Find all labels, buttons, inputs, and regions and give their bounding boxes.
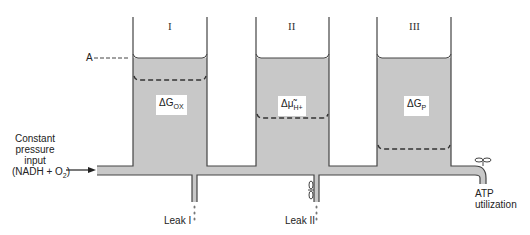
- tank-numeral-1: I: [168, 20, 172, 32]
- leak-2-label: Leak II: [285, 215, 315, 226]
- tank-numeral-3: III: [409, 20, 420, 32]
- tank-label-delta-mu-h: Δμ̃H+: [278, 96, 306, 116]
- energy-transduction-tank-diagram: A I II III ΔGOX Δμ̃H+ ΔGP Constant press…: [0, 0, 530, 235]
- reference-label-a: A: [86, 52, 93, 63]
- fluid-fill: [97, 58, 486, 202]
- tank-numeral-2: II: [288, 20, 295, 32]
- leak-1-label: Leak I: [164, 215, 191, 226]
- input-label: Constant pressure input (NADH + O2): [12, 133, 58, 181]
- tank-system-graphic: [0, 0, 530, 235]
- tank-label-delta-g-ox: ΔGOX: [156, 95, 187, 115]
- input-formula: (NADH + O2): [12, 166, 58, 181]
- valve-icon: [308, 181, 314, 199]
- tap-icon: [475, 158, 491, 166]
- liquid-surfaces: [133, 54, 451, 58]
- input-arrow-icon: [66, 167, 96, 173]
- tank-label-delta-g-p: ΔGP: [404, 96, 429, 116]
- atp-utilization-label: ATP utilization: [475, 188, 517, 210]
